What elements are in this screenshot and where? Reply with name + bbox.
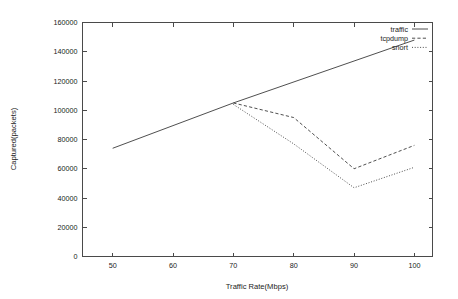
x-tick-label: 90: [350, 261, 358, 270]
y-tick-label: 160000: [54, 18, 78, 27]
y-tick-label: 60000: [58, 164, 78, 173]
x-axis-title: Traffic Rate(Mbps): [226, 282, 289, 291]
y-tick-label: 80000: [58, 135, 78, 144]
x-axis-ticks: 5060708090100: [109, 23, 421, 270]
legend-label-traffic: traffic: [391, 25, 409, 34]
line-chart: 0200004000060000800001000001200001400001…: [0, 0, 458, 299]
x-tick-label: 70: [229, 261, 237, 270]
legend-label-snort: snort: [392, 43, 408, 52]
chart-legend: traffictcpdumpsnort: [380, 25, 428, 52]
data-series-group: [113, 40, 415, 188]
x-tick-label: 100: [408, 261, 420, 270]
y-tick-label: 40000: [58, 194, 78, 203]
y-axis-ticks: 0200004000060000800001000001200001400001…: [54, 18, 433, 261]
x-tick-label: 80: [290, 261, 298, 270]
x-tick-label: 60: [169, 261, 177, 270]
x-tick-label: 50: [109, 261, 117, 270]
y-tick-label: 0: [74, 252, 78, 261]
y-tick-label: 120000: [54, 77, 78, 86]
y-axis-title: Captured(packets): [9, 107, 18, 170]
chart-container: 0200004000060000800001000001200001400001…: [0, 0, 458, 299]
series-line-snort: [233, 104, 414, 187]
legend-label-tcpdump: tcpdump: [380, 34, 408, 43]
series-line-traffic: [113, 40, 415, 148]
series-line-tcpdump: [233, 103, 414, 169]
y-tick-label: 140000: [54, 47, 78, 56]
y-tick-label: 20000: [58, 223, 78, 232]
y-tick-label: 100000: [54, 106, 78, 115]
